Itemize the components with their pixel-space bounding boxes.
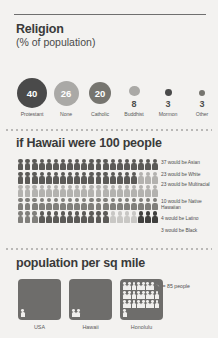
religion-circle: 40: [17, 78, 47, 108]
person-icon: [102, 184, 109, 197]
person-icon: [131, 184, 138, 197]
person-icon: [45, 171, 52, 184]
person-icon: [95, 198, 102, 211]
person-icon: [52, 158, 59, 171]
top-divider-rule: [14, 14, 206, 15]
religion-item-none: 26: [50, 59, 82, 109]
divider-dots-1: [6, 129, 212, 131]
person-icon: [38, 171, 45, 184]
person-icon: [60, 158, 67, 171]
person-icon: [88, 211, 95, 224]
person-icon: [31, 184, 38, 197]
religion-item-mormon: 3: [152, 59, 184, 109]
person-icon: [31, 198, 38, 211]
person-icon: [154, 281, 160, 292]
density-blocks-row: USAHawaiiHonolulu = 85 people: [0, 279, 218, 330]
person-icon: [116, 211, 123, 224]
person-icon: [52, 171, 59, 184]
person-icon: [60, 198, 67, 211]
person-icon: [95, 171, 102, 184]
person-icon: [123, 198, 130, 211]
person-icon: [17, 198, 24, 211]
person-icon: [74, 171, 81, 184]
person-icon: [109, 184, 116, 197]
person-icon: [67, 198, 74, 211]
religion-value: 3: [199, 99, 204, 109]
person-icon: [76, 309, 81, 318]
population-density-title: population per sq mile: [0, 256, 218, 270]
person-icon: [155, 300, 160, 309]
person-icon: [24, 198, 31, 211]
person-icon: [74, 158, 81, 171]
infographic-page: Religion (% of population) 402620833 Pro…: [0, 0, 218, 338]
person-icon: [102, 158, 109, 171]
person-icon: [24, 211, 31, 224]
population-density-section: population per sq mile USAHawaiiHonolulu…: [0, 256, 218, 330]
person-icon: [88, 198, 95, 211]
people-icon-grid: [17, 158, 159, 224]
person-icon: [38, 158, 45, 171]
religion-label: Mormon: [152, 111, 184, 117]
religion-item-other: 3: [186, 59, 218, 109]
person-icon: [145, 158, 152, 171]
density-place-hawaii: Hawaii: [69, 279, 112, 330]
person-icon: [81, 171, 88, 184]
person-icon: [116, 198, 123, 211]
religion-circle-row: 402620833: [0, 58, 218, 110]
person-icon: [24, 171, 31, 184]
religion-subtitle: (% of population): [0, 36, 218, 49]
person-icon: [17, 171, 24, 184]
person-icon: [88, 184, 95, 197]
person-icon: [45, 211, 52, 224]
person-icon: [109, 211, 116, 224]
density-place-usa: USA: [18, 279, 61, 330]
person-icon: [52, 198, 59, 211]
person-icon: [21, 309, 26, 318]
legend-item-white: 23 would be White: [161, 172, 200, 178]
person-icon: [123, 184, 130, 197]
person-icon: [38, 198, 45, 211]
person-icon: [152, 211, 159, 224]
person-icon: [38, 211, 45, 224]
density-place-label: USA: [34, 324, 45, 330]
religion-circle: 26: [54, 81, 79, 106]
person-icon: [138, 184, 145, 197]
religion-title: Religion: [0, 22, 218, 36]
person-icon: [152, 158, 159, 171]
person-icon: [60, 211, 67, 224]
person-icon: [95, 211, 102, 224]
person-icon: [123, 309, 128, 318]
person-icon: [45, 158, 52, 171]
hundred-people-grid-wrap: 37 would be Asian23 would be White23 wou…: [0, 158, 218, 224]
person-icon: [81, 158, 88, 171]
religion-circle: [129, 86, 140, 96]
religion-value: 8: [131, 99, 136, 109]
person-icon: [74, 198, 81, 211]
person-icon: [131, 158, 138, 171]
legend-item-black: 3 would be Black: [161, 228, 197, 234]
person-icon: [88, 171, 95, 184]
person-icon: [60, 184, 67, 197]
person-icon: [31, 171, 38, 184]
person-icon: [155, 291, 160, 300]
person-icon: [145, 198, 152, 211]
person-icon: [17, 211, 24, 224]
person-icon: [81, 211, 88, 224]
person-icon: [60, 171, 67, 184]
person-icon: [138, 171, 145, 184]
density-key-label: = 85 people: [163, 283, 190, 289]
person-icon: [45, 198, 52, 211]
person-icon: [116, 171, 123, 184]
person-icon: [138, 198, 145, 211]
person-icon: [145, 171, 152, 184]
religion-label: Protestant: [16, 111, 48, 117]
density-place-label: Hawaii: [82, 324, 98, 330]
legend-item-native-hawaiian: 10 would be Native Hawaiian: [161, 199, 218, 210]
person-icon: [138, 158, 145, 171]
religion-value: 3: [165, 99, 170, 109]
person-icon: [24, 158, 31, 171]
hundred-people-section: if Hawaii were 100 people 37 would be As…: [0, 136, 218, 224]
person-icon: [81, 198, 88, 211]
person-icon: [102, 211, 109, 224]
religion-label: Other: [186, 111, 218, 117]
